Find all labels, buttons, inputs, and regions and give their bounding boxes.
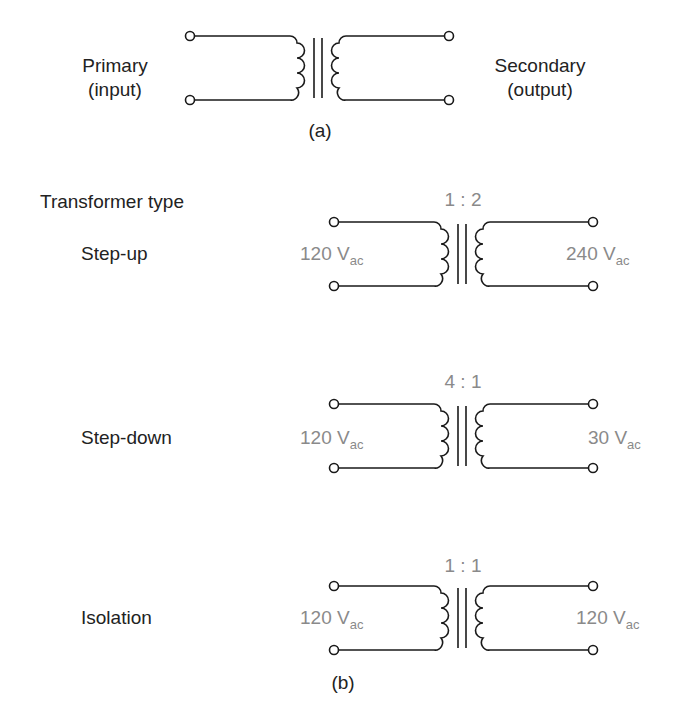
step-down-transformer-symbol <box>330 400 598 473</box>
step-up-label: Step-up <box>81 244 148 263</box>
primary-label: Primary (input) <box>82 56 147 99</box>
transformer-a-symbol <box>186 32 454 105</box>
step-down-output-sub: ac <box>627 437 641 452</box>
step-up-output-value: 240 V <box>566 243 616 264</box>
step-down-output-voltage: 30 Vac <box>588 428 641 447</box>
step-down-input-sub: ac <box>350 437 364 452</box>
step-up-ratio: 1 : 2 <box>445 190 482 209</box>
caption-a: (a) <box>308 121 331 140</box>
secondary-label-line2: (output) <box>495 80 586 99</box>
isolation-input-value: 120 V <box>300 607 350 628</box>
step-up-output-voltage: 240 Vac <box>566 244 629 263</box>
transformer-type-heading: Transformer type <box>40 192 184 211</box>
isolation-transformer-symbol <box>330 582 598 655</box>
step-down-input-value: 120 V <box>300 427 350 448</box>
isolation-ratio: 1 : 1 <box>445 556 482 575</box>
isolation-label: Isolation <box>81 608 152 627</box>
step-up-transformer-symbol <box>330 218 598 291</box>
secondary-label: Secondary (output) <box>495 56 586 99</box>
caption-b: (b) <box>331 673 354 692</box>
step-up-input-voltage: 120 Vac <box>300 244 363 263</box>
step-up-input-value: 120 V <box>300 243 350 264</box>
transformer-diagram: Primary (input) Secondary (output) (a) T… <box>0 0 679 720</box>
step-up-input-sub: ac <box>350 253 364 268</box>
step-down-output-value: 30 V <box>588 427 627 448</box>
isolation-output-value: 120 V <box>576 607 626 628</box>
isolation-output-voltage: 120 Vac <box>576 608 639 627</box>
step-down-input-voltage: 120 Vac <box>300 428 363 447</box>
isolation-output-sub: ac <box>626 617 640 632</box>
secondary-label-line1: Secondary <box>495 56 586 75</box>
step-up-output-sub: ac <box>616 253 630 268</box>
step-down-ratio: 4 : 1 <box>445 372 482 391</box>
primary-label-line2: (input) <box>82 80 147 99</box>
isolation-input-sub: ac <box>350 617 364 632</box>
primary-label-line1: Primary <box>82 56 147 75</box>
step-down-label: Step-down <box>81 428 172 447</box>
isolation-input-voltage: 120 Vac <box>300 608 363 627</box>
